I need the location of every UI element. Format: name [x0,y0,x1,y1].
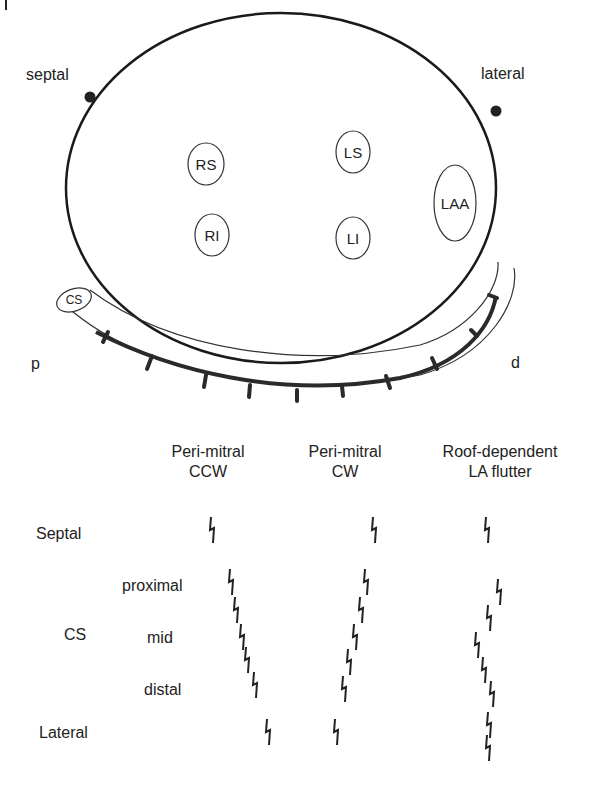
header-line: CW [275,462,415,482]
septal-label: septal [26,67,69,83]
electrogram-deflection-icon [339,675,349,703]
distal-marker-label: d [511,355,520,371]
header-line: LA flutter [420,462,580,482]
row-label-cs: CS [64,627,86,643]
lateral-label: lateral [481,66,525,82]
electrogram-deflection-icon [331,718,341,746]
diagram-canvas [0,0,597,796]
electrogram-deflection-icon [226,568,236,596]
electrogram-deflection-icon [494,578,504,606]
electrogram-deflection-icon [250,671,260,699]
header-line: CCW [138,462,278,482]
vein-label-ls: LS [333,145,373,160]
laa-label: LAA [435,196,475,211]
cs-outer-wall [66,268,515,385]
electrogram-deflection-icon [350,623,360,651]
column-header-cw: Peri-mitral CW [275,442,415,482]
electrogram-deflection-icon [487,680,497,708]
left-atrium-outline [66,13,496,363]
electrogram-deflection-icon [483,734,493,762]
vein-label-li: LI [333,231,373,246]
row-label-mid: mid [147,630,173,646]
row-label-distal: distal [144,682,181,698]
electrogram-deflection-icon [242,646,252,674]
row-label-proximal: proximal [122,578,182,594]
electrogram-deflection-icon [484,604,494,632]
electrogram-deflection-icon [472,631,482,659]
vein-label-ri: RI [192,228,232,243]
electrogram-deflection-icon [369,516,379,544]
electrogram-deflection-icon [344,648,354,676]
column-header-roof: Roof-dependent LA flutter [420,442,580,482]
header-line: Peri-mitral [275,442,415,462]
septal-dot-icon [85,92,96,103]
cs-ostium-label: CS [54,294,94,306]
vein-label-rs: RS [186,157,226,172]
electrogram-deflection-icon [231,596,241,624]
header-line: Roof-dependent [420,442,580,462]
electrogram-deflection-icon [482,516,492,544]
electrogram-deflection-icon [263,718,273,746]
electrogram-deflection-icon [356,596,366,624]
header-line: Peri-mitral [138,442,278,462]
proximal-marker-label: p [31,356,40,372]
lateral-dot-icon [491,106,502,117]
row-label-lateral: Lateral [39,725,88,741]
column-header-ccw: Peri-mitral CCW [138,442,278,482]
electrogram-deflection-icon [207,516,217,544]
electrogram-deflection-icon [361,568,371,596]
row-label-septal: Septal [36,526,81,542]
